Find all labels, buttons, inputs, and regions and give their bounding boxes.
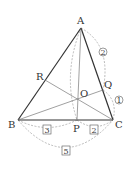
arc-BC [18,120,113,148]
label-P: P [73,123,80,134]
cevian-CR [45,80,113,120]
label-R: R [36,71,44,82]
label-Q: Q [104,79,112,90]
side-AB [18,28,81,120]
ratio-AQ: 2 [101,48,106,57]
cevian-BQ [18,90,103,120]
ratio-BP: 3 [45,126,50,135]
ratio-BC: 5 [64,147,69,156]
label-A: A [76,15,85,26]
label-C: C [115,119,123,130]
ratio-PC: 2 [92,126,97,135]
ratio-QC: 1 [117,96,122,105]
cevian-AP [77,28,81,120]
label-O: O [80,88,88,99]
geometry-diagram: A B C P O Q R 2 1 3 2 5 [0,0,132,171]
label-B: B [8,119,15,130]
